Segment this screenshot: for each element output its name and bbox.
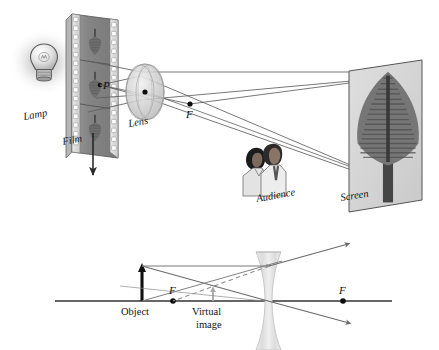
lens-label: Lens xyxy=(126,115,148,129)
virtual-image-arrow xyxy=(210,287,216,302)
projector-panel: Lamp Film Lens F P Audience Screen xyxy=(8,14,422,212)
optics-figure: Lamp Film Lens F P Audience Screen xyxy=(0,0,439,350)
figure-canvas: Lamp Film Lens F P Audience Screen xyxy=(0,0,439,350)
ray-diagram-panel: Object F F Virtual image xyxy=(55,244,392,350)
focal-point-dot-projector xyxy=(187,101,192,106)
focal-point-near-label: F xyxy=(168,284,176,296)
ray-parallel-refracted xyxy=(269,244,348,266)
virtual-image-label-line2: image xyxy=(196,319,222,330)
sprocket-holes-left xyxy=(73,17,78,145)
ray-secondary xyxy=(142,261,282,301)
converging-lens xyxy=(126,64,164,120)
object-point-label-P: P xyxy=(102,79,110,91)
ray-virtual-extension-dashed xyxy=(173,266,269,301)
focal-point-far-dot xyxy=(340,298,346,304)
focal-point-far-label: F xyxy=(338,284,346,296)
object-label: Object xyxy=(121,306,149,317)
virtual-image-label-line1: Virtual xyxy=(192,306,221,317)
focal-point-label-projector: F xyxy=(185,108,193,120)
object-arrow xyxy=(138,263,146,301)
lamp-label: Lamp xyxy=(21,107,47,122)
lens-center-point xyxy=(142,89,147,94)
sprocket-holes-right xyxy=(112,23,117,151)
